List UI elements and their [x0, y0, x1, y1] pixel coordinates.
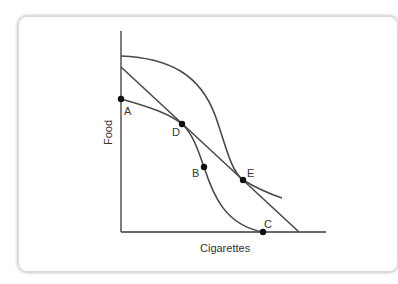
point-b: [201, 164, 207, 170]
point-e: [240, 177, 246, 183]
label-e: E: [247, 167, 254, 179]
point-a: [118, 96, 124, 102]
inner-ppf-curve: [121, 99, 263, 232]
e-extension-curve: [243, 180, 282, 198]
y-axis-label: Food: [102, 120, 114, 145]
label-b: B: [192, 167, 199, 179]
straight-ppf-line: [121, 67, 299, 232]
label-c: C: [264, 218, 272, 230]
label-d: D: [172, 126, 180, 138]
label-a: A: [124, 105, 132, 117]
outer-ppf-curve: [121, 56, 243, 180]
x-axis-label: Cigarettes: [200, 242, 251, 254]
